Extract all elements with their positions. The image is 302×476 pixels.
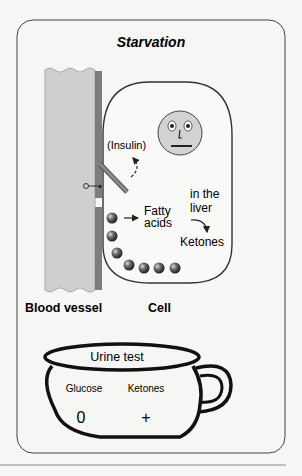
starvation-diagram: (Insulin) Fatty acids in the liver Keton… bbox=[0, 0, 302, 476]
insulin-label: (Insulin) bbox=[107, 139, 146, 151]
blood-vessel bbox=[45, 68, 102, 292]
liver-label-1: in the bbox=[190, 187, 220, 201]
face-icon bbox=[158, 111, 202, 155]
fatty-acids-label-2: acids bbox=[144, 216, 172, 230]
ketones-label: Ketones bbox=[180, 235, 224, 249]
diagram-title: Starvation bbox=[117, 34, 185, 50]
ketones-value: + bbox=[141, 409, 150, 426]
urine-test-title: Urine test bbox=[90, 350, 144, 364]
glucose-label: Glucose bbox=[66, 383, 103, 394]
ketones-test-label: Ketones bbox=[128, 383, 165, 394]
cell-caption: Cell bbox=[148, 301, 171, 315]
blood-vessel-caption: Blood vessel bbox=[25, 301, 102, 315]
glucose-value: 0 bbox=[77, 409, 86, 426]
liver-label-2: liver bbox=[190, 201, 212, 215]
